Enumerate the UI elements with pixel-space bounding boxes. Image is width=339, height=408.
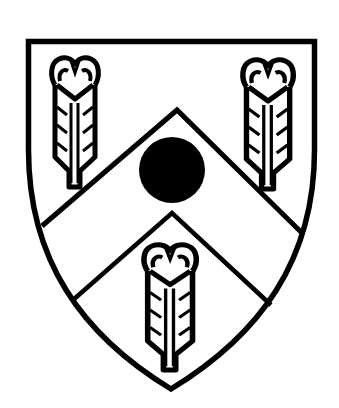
coat-of-arms: Heraldic shield (escutcheon) in black li… [0,0,339,408]
shield-svg [0,0,339,408]
roundel [139,137,205,203]
